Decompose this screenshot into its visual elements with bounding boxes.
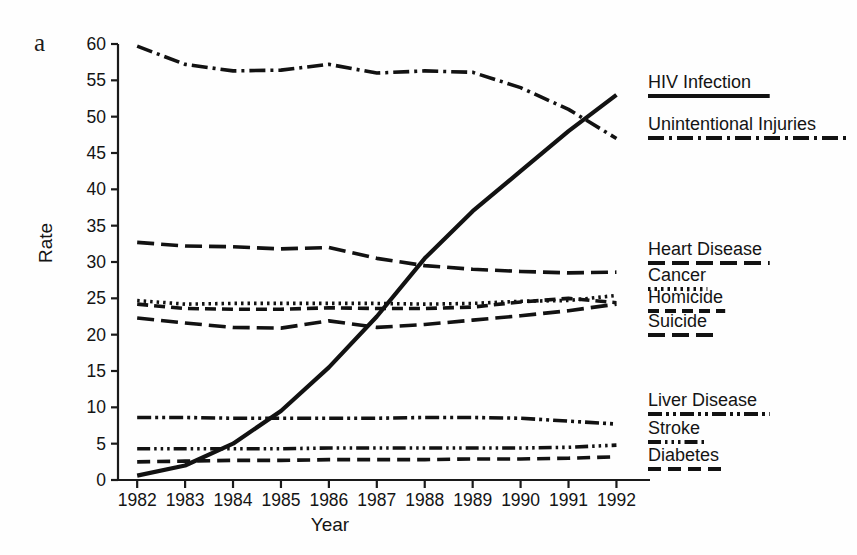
x-tick-label: 1982 (118, 490, 157, 510)
legend-label: Cancer (648, 265, 706, 285)
x-tick-label: 1985 (261, 490, 300, 510)
y-tick-label: 20 (87, 325, 107, 345)
x-tick-label: 1983 (166, 490, 205, 510)
chart-legend: HIV InfectionUnintentional InjuriesHeart… (648, 72, 850, 469)
y-tick-label: 0 (96, 470, 106, 490)
legend-label: HIV Infection (648, 72, 751, 92)
y-tick-label: 50 (87, 107, 107, 127)
x-axis-label: Year (0, 514, 660, 536)
legend-label: Unintentional Injuries (648, 114, 816, 134)
y-tick-label: 40 (87, 179, 107, 199)
x-tick-label: 1988 (405, 490, 444, 510)
figure-panel: a 051015202530354045505560 1982198319841… (0, 0, 857, 555)
legend-label: Heart Disease (648, 239, 762, 259)
series-line-unintentional-injuries (137, 46, 616, 138)
series-lines (137, 46, 616, 475)
x-tick-label: 1990 (501, 490, 540, 510)
line-chart: 051015202530354045505560 198219831984198… (0, 0, 857, 555)
y-tick-label: 15 (87, 361, 106, 381)
legend-label: Diabetes (648, 445, 719, 465)
x-tick-label: 1987 (357, 490, 396, 510)
x-tick-label: 1984 (214, 490, 253, 510)
legend-label: Suicide (648, 311, 707, 331)
y-tick-label: 10 (87, 397, 107, 417)
series-line-heart-disease (137, 242, 616, 273)
legend-label: Liver Disease (648, 390, 757, 410)
y-tick-label: 55 (87, 70, 106, 90)
y-tick-label: 30 (87, 252, 107, 272)
y-axis-label: Rate (35, 188, 57, 298)
legend-label: Stroke (648, 418, 700, 438)
y-tick-label: 35 (87, 216, 106, 236)
x-tick-label: 1989 (453, 490, 492, 510)
y-tick-label: 5 (96, 434, 106, 454)
legend-label: Homicide (648, 287, 723, 307)
x-tick-label: 1992 (597, 490, 636, 510)
series-line-stroke (137, 445, 616, 449)
y-tick-label: 60 (87, 34, 107, 54)
x-axis: 1982198319841985198619871988198919901991… (118, 480, 650, 510)
x-tick-label: 1991 (549, 490, 588, 510)
y-tick-label: 45 (87, 143, 106, 163)
series-line-liver-disease (137, 418, 616, 425)
series-line-diabetes (137, 457, 616, 462)
x-tick-label: 1986 (309, 490, 348, 510)
y-tick-label: 25 (87, 288, 106, 308)
y-axis: 051015202530354045505560 (87, 34, 118, 490)
